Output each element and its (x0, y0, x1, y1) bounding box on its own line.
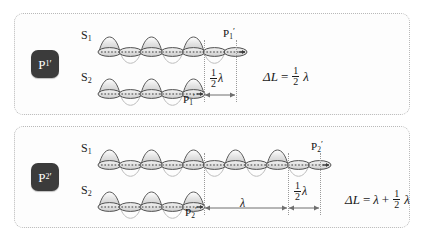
source-label-s1: S1 (81, 141, 92, 156)
equation-lhs: ΔL (263, 69, 278, 85)
point-prime: ′ (233, 26, 235, 36)
equation-fraction: 1 2 (292, 66, 299, 87)
source-letter: S (81, 28, 88, 42)
dim-arrow-half-lambda (288, 203, 322, 213)
source-letter: S (81, 70, 88, 84)
point-prime: ′ (321, 139, 323, 149)
dim-label-lambda: λ (240, 196, 245, 211)
source-label-s1: S1 (81, 28, 92, 43)
equation-lhs: ΔL (345, 192, 360, 208)
fraction-numerator: 1 (393, 189, 400, 199)
equation-plus: + (382, 192, 389, 208)
figure-root: P1′ S1 (0, 0, 423, 242)
point-prime: ′ (195, 205, 197, 215)
equation-lambda: λ (373, 192, 379, 208)
panel-p1: P1′ S1 (14, 13, 410, 115)
equation-equals: = (281, 69, 288, 85)
equation-equals: = (363, 192, 370, 208)
source-subscript: 2 (88, 76, 92, 85)
lambda-symbol: λ (218, 71, 223, 86)
fraction-numerator: 1 (292, 66, 299, 76)
fraction-denominator: 2 (393, 199, 400, 210)
lambda-symbol: λ (240, 196, 245, 211)
source-letter: S (81, 141, 88, 155)
dim-arrow-lambda (204, 203, 290, 213)
dim-arrow-half-lambda (204, 90, 238, 100)
point-prime: ′ (193, 92, 195, 102)
point-label-p2-bottom: P2′ (185, 205, 197, 220)
badge-prime: ′ (50, 59, 52, 69)
dim-label-half-lambda: 1 2 λ (209, 68, 223, 89)
wave-train-p1-s1 (99, 26, 269, 72)
fraction-numerator: 1 (210, 68, 217, 78)
equation-fraction: 1 2 (393, 189, 400, 210)
lambda-symbol: λ (302, 184, 307, 199)
badge-p2: P2′ (31, 163, 59, 191)
equation-p2: ΔL = λ + 1 2 λ (345, 189, 410, 210)
dim-label-half-lambda: 1 2 λ (293, 181, 307, 202)
badge-prime: ′ (50, 172, 52, 182)
fraction-half: 1 2 (210, 68, 217, 89)
source-subscript: 1 (88, 147, 92, 156)
fraction-denominator: 2 (210, 78, 217, 89)
lambda-symbol: λ (404, 192, 410, 208)
fraction-denominator: 2 (294, 191, 301, 202)
fraction-denominator: 2 (292, 76, 299, 87)
point-label-p1-bottom: P1′ (183, 92, 195, 107)
fraction-half: 1 2 (294, 181, 301, 202)
source-subscript: 1 (88, 34, 92, 43)
badge-p1: P1′ (31, 50, 59, 78)
badge-letter: P (38, 58, 45, 71)
lambda-symbol: λ (303, 69, 309, 85)
source-subscript: 2 (88, 189, 92, 198)
point-label-p1-top: P1′ (223, 26, 235, 41)
source-label-s2: S2 (81, 183, 92, 198)
source-letter: S (81, 183, 88, 197)
equation-p1: ΔL = 1 2 λ (263, 66, 309, 87)
fraction-numerator: 1 (294, 181, 301, 191)
point-label-p2-top: P2′ (311, 139, 323, 154)
source-label-s2: S2 (81, 70, 92, 85)
badge-letter: P (38, 171, 45, 184)
panel-p2: P2′ S1 (14, 126, 410, 228)
